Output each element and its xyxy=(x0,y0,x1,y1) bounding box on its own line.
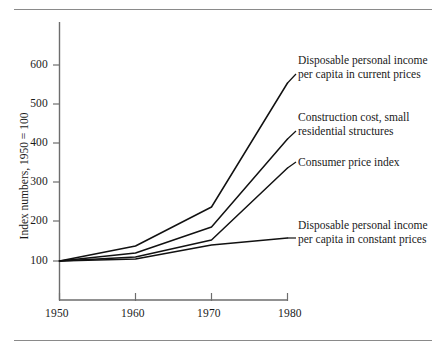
leader-cpi xyxy=(288,162,297,168)
x-tick-label-1950: 1950 xyxy=(45,307,69,319)
y-tick-label-500: 500 xyxy=(14,97,48,109)
annotation-current-prices-line2: per capita in current prices xyxy=(298,68,428,82)
leader-construction-cost xyxy=(288,131,297,139)
annotation-constant-prices-line2: per capita in constant prices xyxy=(298,233,428,247)
annotation-construction-cost-line2: residential structures xyxy=(298,125,409,139)
leader-current-prices xyxy=(288,74,297,83)
y-tick-label-600: 600 xyxy=(14,58,48,70)
annotation-cpi-line1: Consumer price index xyxy=(298,156,400,170)
line-chart-plot xyxy=(0,0,446,351)
x-tick-label-1960: 1960 xyxy=(121,307,145,319)
annotation-constant-prices-line1: Disposable personal income xyxy=(298,219,428,233)
y-tick-label-300: 300 xyxy=(14,175,48,187)
annotation-constant-prices: Disposable personal income per capita in… xyxy=(298,219,428,246)
annotation-current-prices: Disposable personal income per capita in… xyxy=(298,54,428,81)
annotation-construction-cost: Construction cost, small residential str… xyxy=(298,111,409,138)
annotation-construction-cost-line1: Construction cost, small xyxy=(298,111,409,125)
series-line-consumer-price-index xyxy=(60,168,288,261)
x-tick-label-1970: 1970 xyxy=(197,307,221,319)
x-tick-label-1980: 1980 xyxy=(278,307,302,319)
figure-container: Index numbers, 1950 = 100 600 500 400 30… xyxy=(0,0,446,351)
annotation-consumer-price-index: Consumer price index xyxy=(298,156,400,170)
y-tick-label-100: 100 xyxy=(14,254,48,266)
y-tick-label-400: 400 xyxy=(14,136,48,148)
series-line-current-prices xyxy=(60,83,288,261)
y-tick-label-200: 200 xyxy=(14,214,48,226)
annotation-current-prices-line1: Disposable personal income xyxy=(298,54,428,68)
